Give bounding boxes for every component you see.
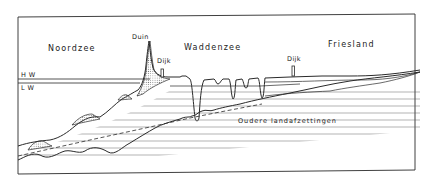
older-deposits-boundary xyxy=(18,72,420,160)
label-duin: Duin xyxy=(132,33,149,41)
cross-section-diagram xyxy=(0,0,440,185)
frame xyxy=(18,14,415,174)
stippled-deposits xyxy=(28,41,170,150)
label-dijk-left: Dijk xyxy=(157,57,171,65)
label-high-water: H W xyxy=(21,71,36,79)
label-oudere-landafzettingen: Oudere landafzettingen xyxy=(238,117,337,125)
label-low-water: L W xyxy=(21,84,34,92)
water-level-lines xyxy=(18,79,150,83)
dike-left xyxy=(161,69,164,77)
dike-right xyxy=(292,66,295,76)
surface-profile xyxy=(18,41,420,146)
label-waddenzee: Waddenzee xyxy=(184,43,241,52)
label-noordzee: Noordzee xyxy=(48,44,96,53)
label-friesland: Friesland xyxy=(328,40,375,49)
label-dijk-right: Dijk xyxy=(287,55,301,63)
